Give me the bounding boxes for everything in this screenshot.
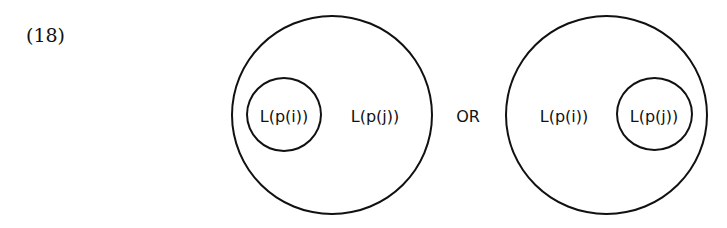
example-number: (18)	[26, 24, 65, 46]
right-outer-label: L(p(i))	[540, 107, 588, 126]
left-outer-label: L(p(j))	[351, 107, 399, 126]
right-inner-label: L(p(j))	[630, 107, 678, 126]
venn-diagram-figure: (18) L(p(i)) L(p(j)) OR L(p(i)) L(p(j))	[0, 0, 727, 228]
left-inner-label: L(p(i))	[260, 107, 308, 126]
or-connector: OR	[456, 107, 480, 126]
